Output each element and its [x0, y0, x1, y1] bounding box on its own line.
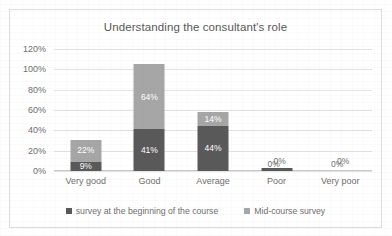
gridline — [54, 171, 372, 172]
bar-group[interactable]: 0%0% — [308, 49, 372, 171]
legend-label: Mid-course survey — [254, 206, 325, 216]
legend-label: survey at the beginning of the course — [76, 206, 218, 216]
bar-segment[interactable]: 41% — [134, 129, 165, 171]
y-axis-tick-label: 100% — [0, 64, 46, 74]
y-axis-tick-label: 80% — [0, 85, 46, 95]
y-axis-tick-label: 60% — [0, 105, 46, 115]
bar-segment[interactable]: 22% — [70, 140, 101, 162]
x-axis-tick-label: Very poor — [308, 176, 372, 186]
plot-area: 0%20%40%60%80%100%120%9%22%41%64%44%14%0… — [54, 49, 372, 171]
bar-value-label: 22% — [77, 146, 94, 155]
y-axis-tick-label: 120% — [0, 44, 46, 54]
x-axis-tick-label: Average — [181, 176, 245, 186]
stacked-bar[interactable]: 9%22% — [70, 140, 101, 172]
legend-item[interactable]: Mid-course survey — [244, 206, 325, 216]
y-axis-tick-label: 40% — [0, 125, 46, 135]
bar-value-label: 0% — [337, 156, 349, 166]
bar-segment[interactable]: 44% — [197, 126, 228, 171]
bar-group[interactable]: 9%22% — [54, 49, 118, 171]
bar-segment[interactable]: 64% — [134, 64, 165, 129]
bar-segment[interactable]: 9% — [70, 162, 101, 171]
legend-swatch-icon — [244, 208, 250, 214]
y-axis-tick-label: 20% — [0, 146, 46, 156]
chart-container: Understanding the consultant's role 0%20… — [9, 9, 382, 228]
bar-value-label: 41% — [141, 146, 158, 155]
legend-item[interactable]: survey at the beginning of the course — [66, 206, 218, 216]
bar-value-label: 9% — [80, 162, 92, 171]
bar-value-label: 64% — [141, 93, 158, 102]
x-axis-tick-label: Good — [118, 176, 182, 186]
bar-segment[interactable]: 14% — [197, 112, 228, 126]
chart-title: Understanding the consultant's role — [10, 21, 381, 33]
x-axis-tick-label: Very good — [54, 176, 118, 186]
x-axis-tick-label: Poor — [245, 176, 309, 186]
y-axis-tick-label: 0% — [0, 166, 46, 176]
stacked-bar[interactable]: 44%14% — [197, 112, 228, 171]
bar-group[interactable]: 0%0% — [245, 49, 309, 171]
bar-group[interactable]: 44%14% — [181, 49, 245, 171]
legend-swatch-icon — [66, 208, 72, 214]
bar-group[interactable]: 41%64% — [118, 49, 182, 171]
bar-value-label: 44% — [204, 144, 221, 153]
bar-value-label: 14% — [204, 115, 221, 124]
stacked-bar[interactable]: 41%64% — [134, 64, 165, 171]
chart-legend: survey at the beginning of the courseMid… — [10, 206, 381, 216]
bar-value-label: 0% — [273, 156, 285, 166]
